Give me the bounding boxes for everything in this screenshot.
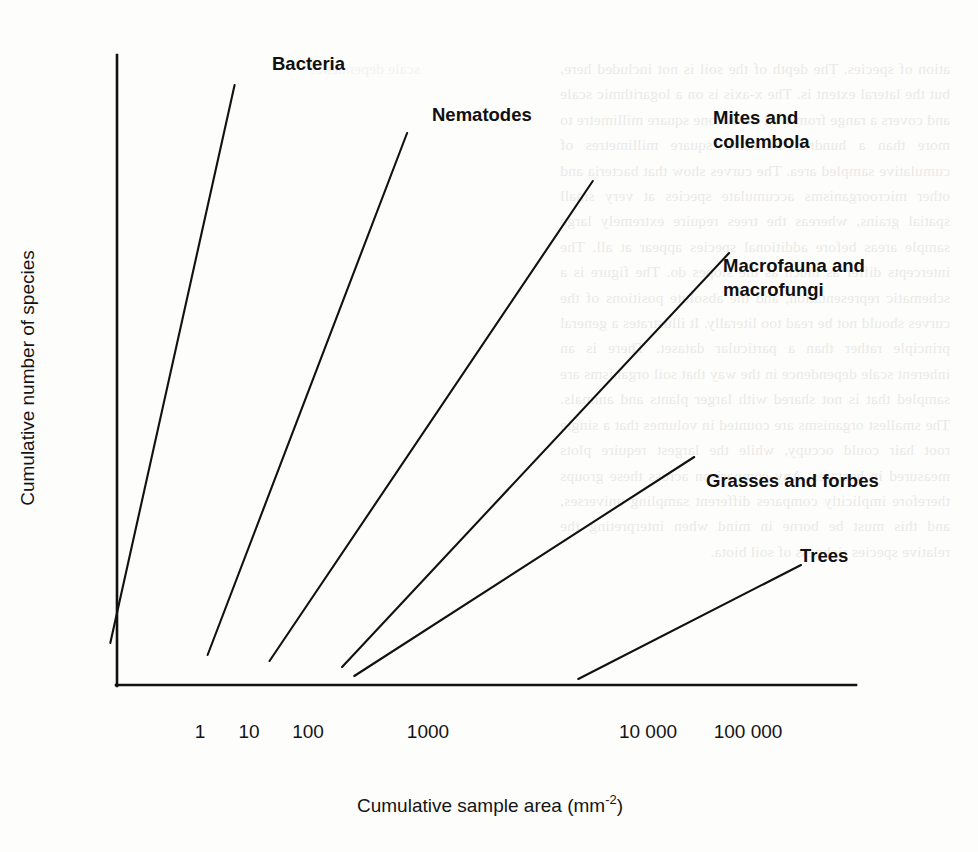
x-tick-10000: 10 000 [619, 721, 677, 742]
figure-container: ation of species. The depth of the soil … [0, 0, 978, 852]
series-label-grasses-and-forbes: Grasses and forbes [706, 470, 879, 491]
series-line-grasses-and-forbes [354, 457, 694, 676]
x-axis-title-exponent: -2 [605, 792, 617, 807]
series-labels: Bacteria Nematodes Mites and collembola … [272, 53, 879, 566]
x-tick-1000: 1000 [407, 721, 449, 742]
series-label-mites-line1: Mites and [713, 107, 798, 128]
series-label-bacteria: Bacteria [272, 53, 346, 74]
series-label-nematodes: Nematodes [432, 104, 532, 125]
series-label-mites-line2: collembola [713, 131, 810, 152]
species-accumulation-chart: 1 10 100 1000 10 000 100 000 Bacteria Ne… [0, 0, 978, 852]
series-label-trees: Trees [800, 545, 848, 566]
series-lines [110, 85, 801, 679]
x-tick-1: 1 [195, 721, 206, 742]
series-line-macrofauna-and-macrofungi [342, 253, 729, 667]
y-axis-title: Cumulative number of species [17, 250, 38, 506]
series-label-macrofauna-line1: Macrofauna and [723, 255, 865, 276]
x-tick-100000: 100 000 [714, 721, 783, 742]
x-axis-title: Cumulative sample area (mm-2) [357, 792, 623, 816]
x-axis-title-base: Cumulative sample area (mm [357, 795, 605, 816]
series-line-nematodes [208, 133, 408, 655]
series-line-bacteria [110, 85, 234, 643]
x-tick-10: 10 [238, 721, 259, 742]
series-line-trees [578, 565, 801, 679]
x-axis-title-close: ) [617, 795, 623, 816]
series-line-mites-and-collembola [270, 181, 593, 661]
x-tick-labels: 1 10 100 1000 10 000 100 000 [195, 721, 783, 742]
series-label-macrofauna-line2: macrofungi [723, 279, 824, 300]
x-tick-100: 100 [292, 721, 324, 742]
